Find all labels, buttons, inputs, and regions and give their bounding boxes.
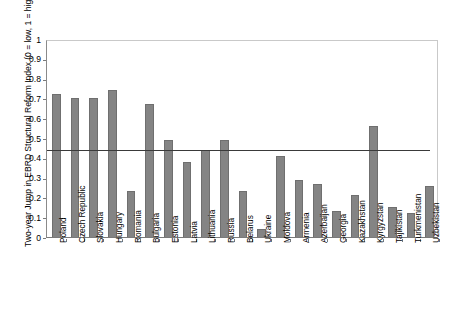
x-axis-label: Tajikistan bbox=[395, 209, 403, 243]
x-axis-label: Moldova bbox=[283, 212, 291, 243]
x-axis-label: Russia bbox=[227, 218, 235, 243]
x-axis-label: Czech Republic bbox=[78, 186, 86, 243]
x-axis-label: Kyrgyzstan bbox=[376, 202, 384, 243]
x-axis-label: Slovakia bbox=[96, 212, 104, 243]
x-axis-label: Turkmenistan bbox=[414, 194, 422, 243]
y-axis-tick-label: 0.9 bbox=[0, 55, 41, 64]
y-axis-tick-label: 0.7 bbox=[0, 95, 41, 104]
bar bbox=[52, 94, 61, 237]
y-axis-tick-label: 0.6 bbox=[0, 115, 41, 124]
x-axis-label: Armenia bbox=[302, 212, 310, 243]
x-axis-label: Ukraine bbox=[264, 215, 272, 243]
bar-chart: Two-year Jump in EBRD Structural Reform … bbox=[0, 0, 455, 336]
y-axis-tick-label: 0.8 bbox=[0, 75, 41, 84]
x-axis-label: Bulgaria bbox=[152, 213, 160, 243]
y-axis-tick-label: 0 bbox=[0, 234, 41, 243]
x-axis-label: Georgia bbox=[339, 214, 347, 243]
x-axis-label: Kazakhstan bbox=[358, 200, 366, 243]
x-axis-label: Azerbaijan bbox=[320, 204, 328, 243]
y-axis-tick-label: 0.5 bbox=[0, 135, 41, 144]
x-axis-label: Lithuania bbox=[208, 210, 216, 243]
average-reference-line bbox=[47, 150, 430, 151]
x-axis-label: Belarus bbox=[246, 215, 254, 243]
y-axis-tick-label: 0.3 bbox=[0, 174, 41, 183]
x-axis-label: Hungary bbox=[115, 212, 123, 243]
x-axis-label: Uzbekistan bbox=[432, 202, 440, 243]
x-axis-label: Romania bbox=[134, 210, 142, 243]
y-axis-tick-label: 0.1 bbox=[0, 214, 41, 223]
x-axis-label: Poland bbox=[59, 217, 67, 243]
x-axis-label: Latvia bbox=[190, 221, 198, 243]
x-axis-label: Estonia bbox=[171, 216, 179, 243]
y-axis-tick-label: 1 bbox=[0, 36, 41, 45]
y-axis-tickmark bbox=[43, 238, 46, 239]
y-axis-tick-label: 0.4 bbox=[0, 154, 41, 163]
y-axis-tick-label: 0.2 bbox=[0, 194, 41, 203]
